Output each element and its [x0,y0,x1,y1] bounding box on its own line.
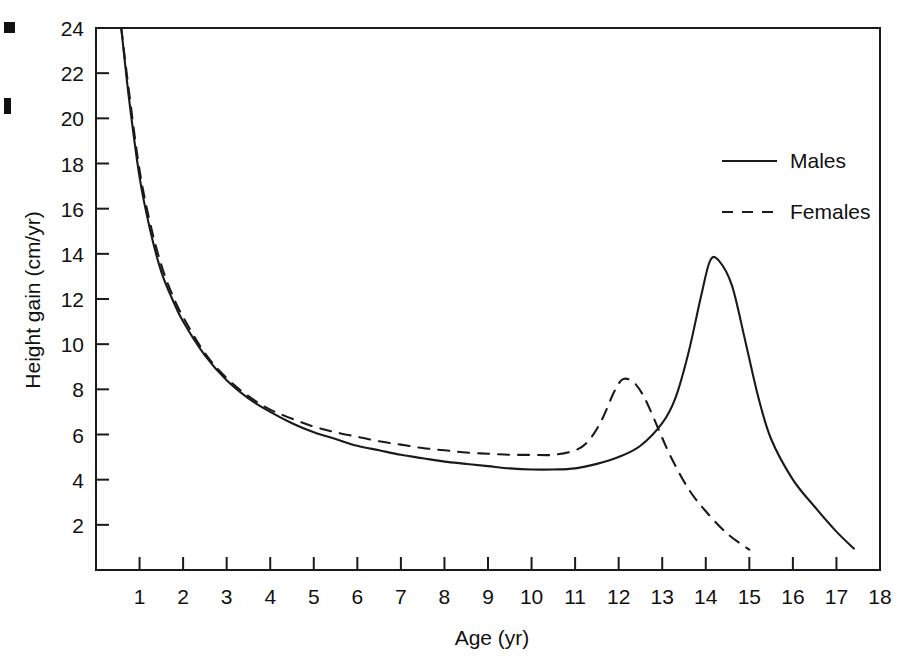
y-tick-label: 10 [61,333,84,356]
x-tick-label: 4 [264,585,276,608]
x-axis-title: Age (yr) [455,626,530,649]
x-tick-label: 11 [564,585,586,608]
y-tick-label: 4 [72,469,84,492]
x-tick-label: 7 [395,585,407,608]
y-tick-label: 2 [72,514,84,537]
y-tick-label: 16 [61,198,84,221]
x-tick-label: 5 [308,585,320,608]
y-tick-label: 12 [61,288,84,311]
y-tick-label: 20 [61,107,84,130]
chart-canvas: 24681012141618202224 1234567891011121314… [0,0,917,671]
legend-label-males: Males [790,149,846,172]
growth-velocity-chart: 24681012141618202224 1234567891011121314… [0,0,917,671]
scan-artifact-top [4,22,15,33]
x-tick-label: 15 [738,585,761,608]
x-tick-label: 13 [651,585,674,608]
y-axis-title: Height gain (cm/yr) [21,211,44,388]
x-tick-label: 10 [520,585,543,608]
y-tick-label: 14 [61,243,85,266]
x-tick-label: 1 [134,585,146,608]
x-tick-label: 9 [482,585,494,608]
x-tick-label: 6 [351,585,363,608]
x-tick-label: 8 [439,585,451,608]
y-tick-label: 6 [72,424,84,447]
x-tick-label: 16 [781,585,804,608]
y-tick-label: 22 [61,62,84,85]
legend-label-females: Females [790,200,871,223]
x-tick-label: 3 [221,585,233,608]
y-tick-label: 18 [61,153,84,176]
x-tick-label: 14 [694,585,718,608]
x-tick-label: 2 [177,585,189,608]
x-tick-label: 18 [868,585,891,608]
scan-artifact-middle [4,98,11,114]
x-tick-label: 17 [825,585,848,608]
y-tick-label: 8 [72,378,84,401]
y-tick-label: 24 [61,17,85,40]
x-tick-label: 12 [607,585,630,608]
